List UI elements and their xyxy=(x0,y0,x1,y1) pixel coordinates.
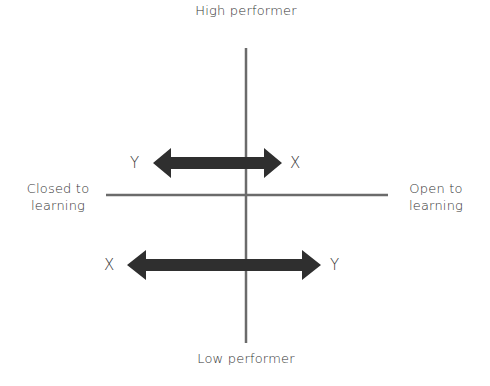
lower-arrow-left-label: X xyxy=(104,256,114,274)
upper-arrow-left-label: Y xyxy=(130,154,139,172)
quadrant-diagram: High performer Low performer Closed to l… xyxy=(0,0,490,386)
closed-to-learning-label: Closed to learning xyxy=(14,180,102,214)
upper-arrow-right-label: X xyxy=(290,154,300,172)
low-performer-label: Low performer xyxy=(195,350,297,367)
high-performer-label: High performer xyxy=(195,2,297,19)
lower-arrow-right-label: Y xyxy=(330,256,339,274)
lower-double-arrow-icon xyxy=(127,250,321,280)
upper-double-arrow-icon xyxy=(153,148,282,178)
open-to-learning-label: Open to learning xyxy=(393,180,479,214)
